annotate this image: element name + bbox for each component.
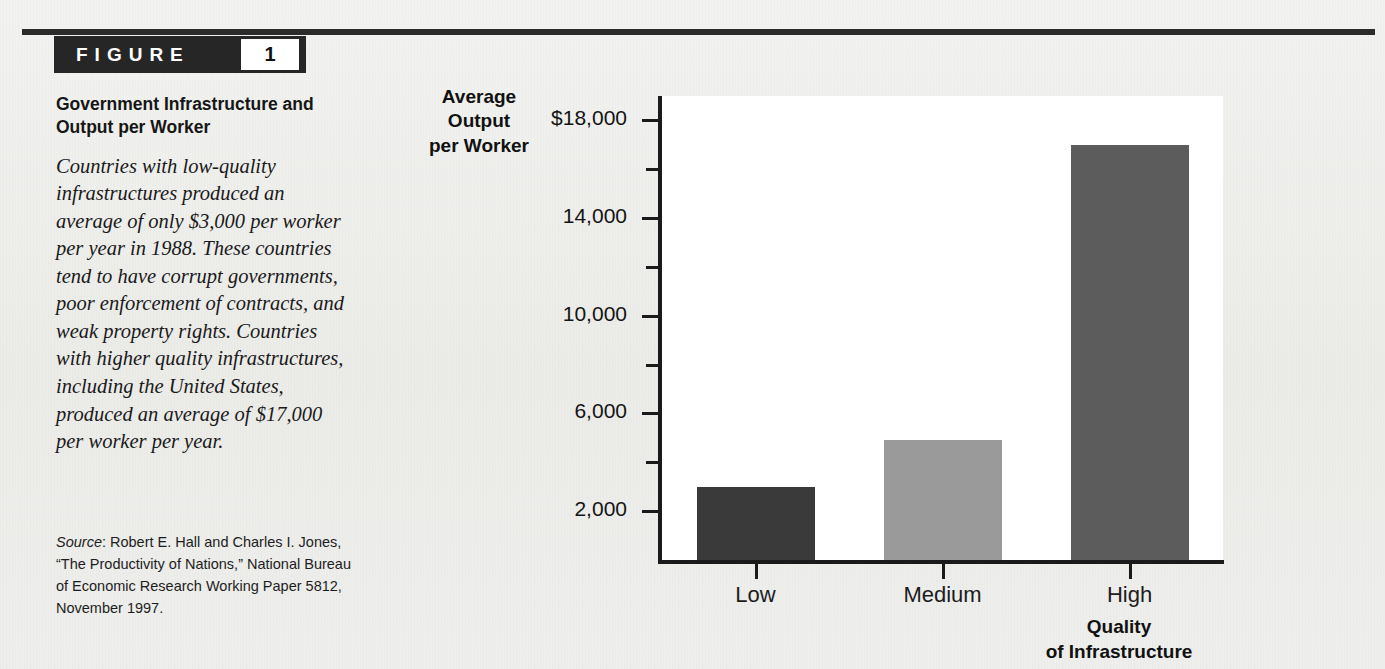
y-tick-minor (646, 461, 660, 464)
figure-description: Countries with low-quality infrastructur… (56, 153, 346, 456)
x-tick (1129, 564, 1132, 579)
figure-panel: FIGURE 1 Government Infrastructure and O… (0, 0, 1385, 669)
y-tick-label: 2,000 (574, 497, 627, 521)
y-axis-title-line-2: Output (404, 109, 554, 133)
bar-chart: Average Output per Worker 2,0006,00010,0… (396, 85, 1256, 645)
bar-medium (884, 440, 1002, 560)
y-tick-label: 6,000 (574, 399, 627, 423)
source-note: Source: Robert E. Hall and Charles I. Jo… (56, 531, 356, 619)
y-axis-title: Average Output per Worker (404, 85, 554, 158)
header-rule (22, 29, 1375, 35)
y-axis-title-line-3: per Worker (404, 134, 554, 158)
x-tick-label: Medium (863, 582, 1023, 608)
bars-layer (662, 96, 1223, 560)
y-tick-minor (646, 266, 660, 269)
figure-title: Government Infrastructure and Output per… (56, 93, 346, 140)
y-tick-minor (646, 168, 660, 171)
y-tick-label: $18,000 (551, 106, 627, 130)
x-axis-title-line-2: of Infrastructure (1004, 640, 1234, 665)
x-tick (755, 564, 758, 579)
bar-low (697, 487, 815, 560)
figure-number-box: 1 (241, 39, 299, 70)
y-axis-title-line-1: Average (404, 85, 554, 109)
bar-high (1071, 145, 1189, 560)
y-tick-major (642, 119, 660, 122)
y-tick-major (642, 412, 660, 415)
y-tick-major (642, 217, 660, 220)
figure-tab: FIGURE 1 (54, 36, 306, 73)
y-tick-major (642, 315, 660, 318)
caption-column: Government Infrastructure and Output per… (56, 93, 346, 456)
x-axis-title: Quality of Infrastructure (1004, 615, 1234, 664)
y-tick-minor (646, 364, 660, 367)
source-label: Source (56, 534, 102, 550)
figure-number: 1 (264, 43, 275, 66)
x-tick (942, 564, 945, 579)
figure-label: FIGURE (76, 44, 190, 66)
y-tick-label: 10,000 (563, 302, 627, 326)
x-axis-title-line-1: Quality (1004, 615, 1234, 640)
y-tick-major (642, 510, 660, 513)
x-tick-label: Low (676, 582, 836, 608)
x-tick-label: High (1050, 582, 1210, 608)
y-tick-label: 14,000 (563, 204, 627, 228)
